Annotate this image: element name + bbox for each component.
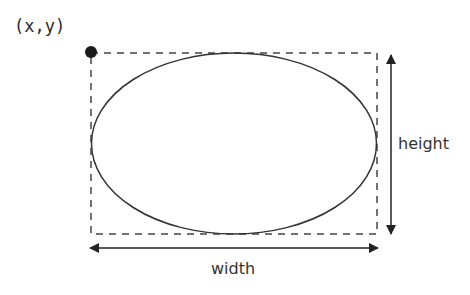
width-label: width [211,261,255,277]
origin-label: (x,y) [14,18,65,35]
ellipse-shape [92,53,377,234]
bounding-box [91,53,377,234]
origin-point [85,46,97,58]
height-label: height [398,136,449,152]
